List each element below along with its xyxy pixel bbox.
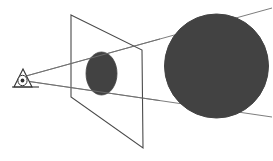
eye-iris-icon <box>21 79 25 83</box>
perspective-projection-diagram <box>0 0 273 161</box>
diagram-canvas <box>0 0 273 161</box>
sphere-object <box>165 14 269 118</box>
